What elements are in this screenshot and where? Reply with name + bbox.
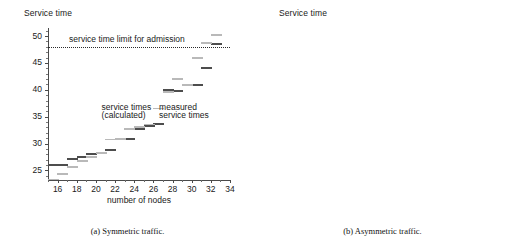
caption-asymmetric: (b) Asymmetric traffic. xyxy=(255,226,510,236)
calculated-data-point xyxy=(211,34,222,36)
y-axis-tick xyxy=(45,90,48,91)
x-axis-tick-label: 16 xyxy=(48,184,68,194)
y-axis-title-b: Service time xyxy=(279,8,327,18)
x-axis-minor-tick xyxy=(201,180,202,182)
y-axis-minor-tick xyxy=(46,127,48,128)
service-time-limit-line xyxy=(48,47,230,48)
x-axis-tick-label: 28 xyxy=(163,184,183,194)
measured-data-point xyxy=(172,90,183,92)
x-axis-tick xyxy=(153,180,154,183)
y-axis-tick xyxy=(45,170,48,171)
chart-panel-asymmetric: Service time 253035404516182022242628303… xyxy=(255,0,510,248)
y-axis-tick-label: 35 xyxy=(18,111,42,121)
y-axis-minor-tick xyxy=(46,95,48,96)
measured-data-point xyxy=(124,138,135,140)
y-axis-tick-label: 45 xyxy=(18,57,42,67)
calculated-data-point xyxy=(163,91,174,93)
calculated-data-point xyxy=(67,166,78,168)
y-axis-minor-tick xyxy=(46,74,48,75)
x-axis-minor-tick xyxy=(220,180,221,182)
y-axis-tick xyxy=(45,144,48,145)
y-axis-tick-label: 30 xyxy=(18,138,42,148)
y-axis-minor-tick xyxy=(46,79,48,80)
measured-data-point xyxy=(105,149,116,151)
calculated-data-point xyxy=(86,156,97,158)
measured-data-point xyxy=(153,123,164,125)
y-axis-minor-tick xyxy=(46,122,48,123)
x-axis-tick-label: 26 xyxy=(143,184,163,194)
y-axis-tick-label: 50 xyxy=(18,31,42,41)
x-axis-tick xyxy=(211,180,212,183)
x-axis-minor-tick xyxy=(182,180,183,182)
y-axis-minor-tick xyxy=(46,154,48,155)
y-axis-minor-tick xyxy=(46,58,48,59)
chart-annotation: (calculated) xyxy=(102,110,146,121)
calculated-data-point xyxy=(144,124,155,126)
measured-data-point xyxy=(201,67,212,69)
calculated-data-point xyxy=(124,128,135,130)
x-axis-tick xyxy=(134,180,135,183)
y-axis-minor-tick xyxy=(46,41,48,42)
calculated-data-point xyxy=(48,179,59,181)
calculated-data-point xyxy=(201,42,212,44)
y-axis-line xyxy=(48,28,49,180)
calculated-data-point xyxy=(96,152,107,154)
x-axis-tick-label: 24 xyxy=(124,184,144,194)
y-axis-minor-tick xyxy=(46,31,48,32)
x-axis-tick-label: 22 xyxy=(105,184,125,194)
caption-symmetric: (a) Symmetric traffic. xyxy=(0,226,255,236)
x-axis-minor-tick xyxy=(67,180,68,182)
measured-data-point xyxy=(211,43,222,45)
x-axis-minor-tick xyxy=(144,180,145,182)
x-axis-title-a: number of nodes xyxy=(79,195,199,205)
y-axis-minor-tick xyxy=(46,52,48,53)
x-axis-tick xyxy=(96,180,97,183)
x-axis-tick xyxy=(115,180,116,183)
x-axis-line xyxy=(48,180,230,181)
y-axis-minor-tick xyxy=(46,138,48,139)
calculated-data-point xyxy=(57,173,68,175)
y-axis-tick-label: 25 xyxy=(18,165,42,175)
y-axis-tick-label: 40 xyxy=(18,84,42,94)
x-axis-minor-tick xyxy=(106,180,107,182)
calculated-data-point xyxy=(77,160,88,162)
calculated-data-point xyxy=(134,126,145,128)
measured-data-point xyxy=(144,125,155,127)
calculated-data-point xyxy=(115,138,126,140)
x-axis-tick xyxy=(173,180,174,183)
y-axis-tick xyxy=(45,63,48,64)
y-axis-minor-tick xyxy=(46,176,48,177)
chart-panel-symmetric: Service time 253035404550161820222426283… xyxy=(0,0,255,248)
x-axis-minor-tick xyxy=(163,180,164,182)
x-axis-minor-tick xyxy=(86,180,87,182)
y-axis-minor-tick xyxy=(46,106,48,107)
x-axis-tick xyxy=(230,180,231,183)
measured-data-point xyxy=(134,128,145,130)
y-axis-minor-tick xyxy=(46,101,48,102)
y-axis-title-a: Service time xyxy=(24,8,72,18)
x-axis-tick-label: 20 xyxy=(86,184,106,194)
y-axis-minor-tick xyxy=(46,133,48,134)
y-axis-tick xyxy=(45,117,48,118)
measured-data-point xyxy=(192,84,203,86)
y-axis-tick xyxy=(45,36,48,37)
y-axis-minor-tick xyxy=(46,111,48,112)
x-axis-tick-label: 32 xyxy=(201,184,221,194)
chart-annotation: service time limit for admission xyxy=(69,34,185,45)
x-axis-tick xyxy=(77,180,78,183)
x-axis-tick-label: 18 xyxy=(67,184,87,194)
calculated-data-point xyxy=(172,78,183,80)
figure-container: Service time 253035404550161820222426283… xyxy=(0,0,510,248)
y-axis-minor-tick xyxy=(46,84,48,85)
plot-area-symmetric: 25303540455016182022242628303234service … xyxy=(48,28,230,180)
x-axis-tick xyxy=(192,180,193,183)
chart-annotation: service times xyxy=(159,110,209,121)
calculated-data-point xyxy=(182,84,193,86)
x-axis-tick-label: 30 xyxy=(182,184,202,194)
calculated-data-point xyxy=(192,57,203,59)
y-axis-minor-tick xyxy=(46,68,48,69)
y-axis-minor-tick xyxy=(46,160,48,161)
x-axis-tick-label: 34 xyxy=(220,184,240,194)
y-axis-minor-tick xyxy=(46,149,48,150)
x-axis-minor-tick xyxy=(125,180,126,182)
